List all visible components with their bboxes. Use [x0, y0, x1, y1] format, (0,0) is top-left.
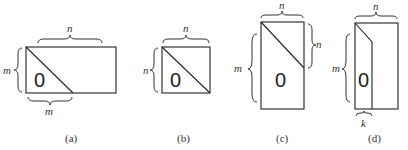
caption: (b) [177, 132, 190, 145]
matrix-rect [355, 23, 398, 109]
left-brace [150, 48, 158, 92]
top-label: n [373, 0, 379, 12]
panel-c: 0 n n m (c) [234, 0, 322, 145]
top-brace [355, 12, 397, 19]
zero-label: 0 [275, 69, 286, 91]
zero-label: 0 [358, 69, 369, 91]
top-brace [38, 35, 102, 43]
caption: (a) [65, 132, 78, 145]
zero-label: 0 [34, 69, 45, 91]
left-brace [14, 48, 22, 92]
top-label: n [67, 22, 73, 34]
left-label: n [143, 64, 149, 76]
matrix-rect [261, 22, 304, 109]
left-brace [342, 34, 350, 102]
top-brace [261, 11, 303, 18]
zero-label: 0 [170, 69, 181, 91]
left-label: m [332, 62, 340, 74]
left-label: m [3, 64, 11, 76]
caption: (d) [368, 132, 381, 145]
bottom-label: m [45, 105, 53, 117]
diagonal-line [261, 22, 304, 68]
caption: (c) [276, 132, 289, 145]
left-label: m [234, 62, 242, 74]
right-label: n [316, 38, 322, 50]
inner-boundary-line [355, 23, 372, 109]
right-brace [308, 24, 316, 68]
top-brace [163, 35, 209, 43]
bottom-brace [356, 111, 372, 116]
top-label: n [183, 22, 189, 34]
panel-d: 0 n m k (d) [332, 0, 398, 145]
left-brace [248, 34, 257, 102]
panel-b: 0 n n (b) [143, 22, 210, 145]
top-label: n [279, 0, 285, 11]
panel-a: 0 n m m (a) [3, 22, 116, 145]
matrix-diagrams: 0 n m m (a) 0 n n (b) 0 n n m (c) 0 [0, 0, 408, 150]
bottom-brace [28, 97, 72, 105]
bottom-label: k [361, 117, 367, 129]
